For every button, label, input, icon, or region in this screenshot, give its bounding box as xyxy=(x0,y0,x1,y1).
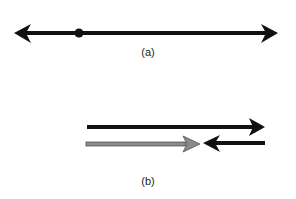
panel-a: (a) xyxy=(14,24,278,58)
panel-b-label: (b) xyxy=(141,175,154,187)
panel-a-label: (a) xyxy=(141,46,154,58)
vector-diagram: (a) (b) xyxy=(0,0,296,199)
point-marker xyxy=(75,29,84,38)
gray-arrow-shaft xyxy=(86,142,186,146)
panel-b: (b) xyxy=(86,118,265,187)
